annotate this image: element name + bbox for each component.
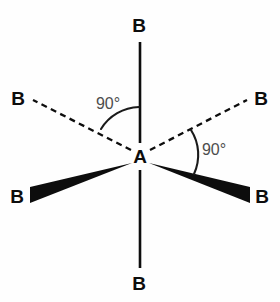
bond-wedge-lower-left bbox=[30, 163, 132, 203]
bond-dashed-upper-right bbox=[150, 100, 247, 150]
angle-arc-right bbox=[191, 130, 198, 174]
angle-label-left: 90° bbox=[96, 96, 120, 112]
ligand-label-bottom: B bbox=[132, 274, 146, 293]
bond-wedge-lower-right bbox=[149, 163, 250, 203]
angle-label-right: 90° bbox=[202, 142, 226, 158]
ligand-label-lower-right: B bbox=[255, 187, 269, 206]
ligand-label-top: B bbox=[132, 16, 146, 35]
ligand-label-upper-right: B bbox=[254, 89, 268, 108]
ligand-label-lower-left: B bbox=[10, 187, 24, 206]
central-atom-label: A bbox=[133, 147, 147, 166]
ligand-label-upper-left: B bbox=[11, 89, 25, 108]
molecular-geometry-diagram: A B B B B B B 90° 90° bbox=[0, 0, 280, 302]
